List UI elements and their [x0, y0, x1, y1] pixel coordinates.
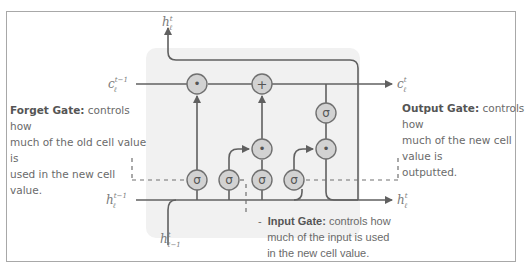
- caption-text: much of the input is used: [267, 231, 389, 243]
- c-out-label: ctℓ: [397, 76, 407, 94]
- sigma-symbol: σ: [322, 106, 330, 120]
- caption-text: outputted.: [402, 166, 457, 178]
- sigma-symbol: σ: [290, 173, 298, 187]
- sigma-symbol: σ: [258, 173, 266, 187]
- caption-text: in the new cell value.: [267, 247, 369, 259]
- forget-gate-title: Forget Gate:: [10, 104, 85, 116]
- sigma-symbol: σ: [193, 173, 201, 187]
- sigma-symbol: σ: [225, 173, 233, 187]
- caption-text: much of the old cell value is: [10, 136, 146, 164]
- forget-gate-caption: Forget Gate: controls how much of the ol…: [10, 102, 150, 198]
- input-gate-caption: - Input Gate: controls how much of the i…: [258, 213, 418, 261]
- mult-symbol: •: [258, 142, 265, 156]
- caption-dash: -: [258, 215, 262, 227]
- caption-text: controls how: [326, 215, 391, 227]
- c-in-label: ct−1ℓ: [108, 76, 128, 94]
- caption-text: much of the new cell value is: [402, 134, 512, 162]
- output-gate-title: Output Gate:: [402, 102, 479, 114]
- mult-symbol: •: [193, 77, 200, 91]
- input-gate-title: Input Gate:: [268, 215, 326, 227]
- plus-symbol: +: [257, 77, 268, 92]
- caption-text: used in the new cell value.: [10, 168, 115, 196]
- output-gate-caption: Output Gate: controls how much of the ne…: [402, 100, 526, 180]
- mult-symbol: •: [322, 142, 329, 156]
- h-out-right-label: htℓ: [397, 192, 408, 210]
